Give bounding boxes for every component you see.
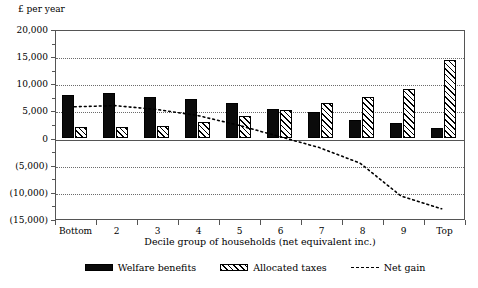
x-axis-tick-label: 2 — [114, 226, 120, 236]
x-axis-tick-mark — [219, 220, 220, 225]
y-axis-tick-label: 10,000 — [17, 80, 49, 89]
x-axis-tick-mark — [342, 220, 343, 225]
y-axis-tick-label: 20,000 — [17, 26, 49, 35]
legend-item: Net gain — [351, 262, 426, 273]
y-axis-tick-label: (5,000) — [15, 161, 48, 170]
net-gain-line — [56, 31, 464, 219]
y-axis-tick-label: 0 — [42, 134, 48, 143]
y-axis-tick-label: 15,000 — [17, 53, 49, 62]
x-axis-tick-mark — [260, 220, 261, 225]
x-axis-tick-label: 5 — [237, 226, 243, 236]
x-axis-tick-mark — [55, 220, 56, 225]
x-axis-tick-label: 9 — [401, 226, 407, 236]
x-axis-tick-label: 3 — [155, 226, 161, 236]
legend-item: Allocated taxes — [220, 262, 327, 273]
legend-label: Net gain — [384, 262, 426, 273]
y-axis-tick-label: 5,000 — [22, 107, 48, 116]
x-axis-tick-label: 6 — [278, 226, 284, 236]
solid-black-swatch — [85, 264, 113, 271]
y-axis-unit-caption: £ per year — [18, 4, 65, 15]
y-axis-tick-label: (15,000) — [9, 216, 48, 225]
x-axis-tick-label: 7 — [319, 226, 325, 236]
y-axis: 20,00015,00010,0005,0000(5,000)(10,000)(… — [0, 30, 55, 220]
x-axis-tick-mark — [383, 220, 384, 225]
plot-area — [55, 30, 465, 220]
x-axis-tick-label: 4 — [196, 226, 202, 236]
x-axis-tick-label: Bottom — [59, 226, 92, 236]
x-axis-tick-mark — [301, 220, 302, 225]
chart-legend: Welfare benefitsAllocated taxesNet gain — [55, 262, 455, 273]
x-axis-tick-mark — [178, 220, 179, 225]
dotted-line-swatch — [351, 267, 379, 268]
x-axis-title: Decile group of households (net equivale… — [55, 236, 465, 248]
x-axis-tick-mark — [96, 220, 97, 225]
chart-figure: £ per year 20,00015,00010,0005,0000(5,00… — [0, 0, 478, 288]
legend-item: Welfare benefits — [85, 262, 197, 273]
hatched-swatch — [220, 264, 248, 271]
x-axis-tick-mark — [465, 220, 466, 225]
y-axis-tick-label: (10,000) — [9, 188, 48, 197]
x-axis-tick-mark — [137, 220, 138, 225]
x-axis-tick-label: 8 — [360, 226, 366, 236]
legend-label: Allocated taxes — [253, 262, 327, 273]
x-axis-tick-mark — [424, 220, 425, 225]
x-axis-tick-label: Top — [436, 226, 452, 236]
legend-label: Welfare benefits — [118, 262, 197, 273]
